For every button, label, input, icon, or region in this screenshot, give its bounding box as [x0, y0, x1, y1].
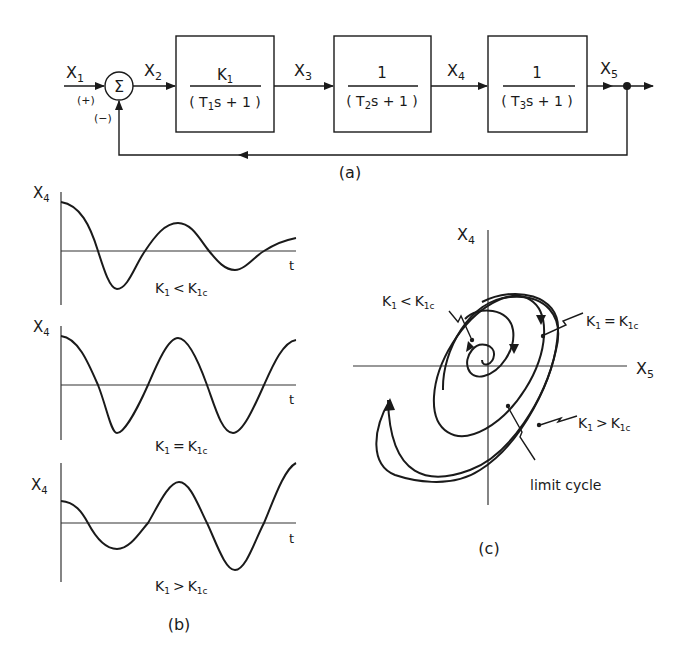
block-diagram: X1 (+) (−) Σ X2 K1 ( T1s + 1 ) X3 1 ( T2… — [64, 36, 653, 182]
phase-plane: X4 X5 K1<K1c K1=K1c K1>K1c limit cycle (… — [353, 225, 654, 558]
sigma-symbol: Σ — [114, 77, 124, 96]
condition-label-3: K1>K1c — [155, 578, 208, 596]
response-panel-gt: X4 t K1>K1c — [31, 463, 296, 596]
label-x5: X5 — [600, 59, 618, 81]
decaying-response-curve — [61, 202, 296, 289]
y-label-3: X4 — [31, 476, 48, 496]
y-label-1: X4 — [33, 184, 50, 204]
figure-canvas: X1 (+) (−) Σ X2 K1 ( T1s + 1 ) X3 1 ( T2… — [0, 0, 679, 657]
leader-gt — [540, 416, 577, 425]
condition-label-1: K1<K1c — [155, 280, 208, 298]
feedback-arrowhead — [115, 100, 123, 110]
block-1 — [176, 36, 274, 132]
label-x4: X4 — [447, 61, 465, 83]
block-2 — [334, 36, 431, 132]
dot-lt — [470, 338, 474, 342]
label-x1: X1 — [66, 63, 84, 85]
leader-eq — [544, 313, 583, 335]
x4-axis-label: X4 — [457, 225, 475, 247]
label-x2: X2 — [144, 61, 162, 83]
block-1-numerator: K1 — [217, 66, 233, 85]
outer-arrow — [384, 398, 395, 411]
phase-label-lt: K1<K1c — [382, 293, 435, 311]
caption-c: (c) — [478, 539, 499, 558]
converging-spiral — [465, 310, 513, 376]
label-minus: (−) — [94, 112, 112, 125]
t-label-1: t — [289, 258, 294, 273]
y-label-2: X4 — [33, 318, 50, 338]
time-responses: X4 t K1<K1c X4 t K1=K1c X4 t K1>K1c (b) — [31, 184, 296, 634]
block-3 — [488, 36, 587, 132]
x5-axis-label: X5 — [636, 359, 654, 381]
block-1-denominator: ( T1s + 1 ) — [189, 94, 261, 112]
phase-label-eq: K1=K1c — [586, 313, 639, 331]
response-panel-lt: X4 t K1<K1c — [33, 184, 296, 305]
block-3-numerator: 1 — [532, 64, 542, 82]
diverging-spiral — [388, 297, 558, 477]
condition-label-2: K1=K1c — [155, 438, 208, 456]
response-panel-eq: X4 t K1=K1c — [33, 318, 296, 456]
caption-a: (a) — [339, 163, 361, 182]
label-plus: (+) — [77, 94, 95, 107]
caption-b: (b) — [168, 615, 191, 634]
label-x3: X3 — [294, 61, 312, 83]
feedback-direction-arrow — [238, 151, 248, 159]
block-3-denominator: ( T3s + 1 ) — [501, 93, 573, 111]
phase-label-gt: K1>K1c — [578, 415, 631, 433]
growing-response-curve — [61, 463, 296, 570]
block-2-denominator: ( T2s + 1 ) — [346, 93, 418, 111]
limit-cycle-label: limit cycle — [530, 477, 601, 493]
t-label-3: t — [289, 531, 294, 546]
t-label-2: t — [289, 392, 294, 407]
block-2-numerator: 1 — [377, 64, 387, 82]
